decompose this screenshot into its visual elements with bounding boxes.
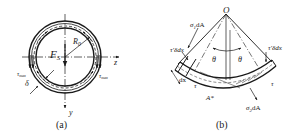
thickness-arrow-inner (30, 86, 38, 94)
curved-wall-segment (175, 56, 276, 88)
origin-label: O (223, 5, 230, 15)
tau-right-label: τ (271, 80, 274, 88)
caption-b: (b) (216, 119, 228, 131)
figure-a: FS R0 z y τmax τmax δ (a) (17, 14, 119, 131)
sigma2-label: σ2dA (246, 104, 261, 113)
tau-prime-right-label: τ′δdx (268, 44, 283, 52)
dx-label: dx (179, 76, 187, 84)
y-axis-label: y (68, 108, 73, 117)
thickness-label: δ (25, 79, 29, 88)
radius-label: R0 (72, 37, 81, 47)
theta-right-label: θ (238, 55, 242, 64)
sigma2-arrow (250, 88, 257, 100)
theta-left-label: θ (212, 55, 216, 64)
shear-force-label: FS (49, 48, 61, 62)
theta-arc (213, 48, 241, 51)
sigma1-label: σ1dA (190, 21, 205, 30)
tau-prime-left-label: τ′δdx (170, 46, 185, 54)
caption-a: (a) (56, 119, 67, 131)
tau-max-left-label: τmax (17, 71, 26, 78)
tau-max-right-label: τmax (99, 73, 108, 80)
z-axis-label: z (113, 58, 118, 67)
figure-b: O σ1dA τ′δdx τ′δdx θ θ dx τ τ A* σ2dA (b… (170, 5, 283, 131)
diagram-canvas: FS R0 z y τmax τmax δ (a) (0, 0, 295, 140)
thickness-arrow-outer (46, 70, 54, 78)
area-label: A* (205, 94, 214, 102)
